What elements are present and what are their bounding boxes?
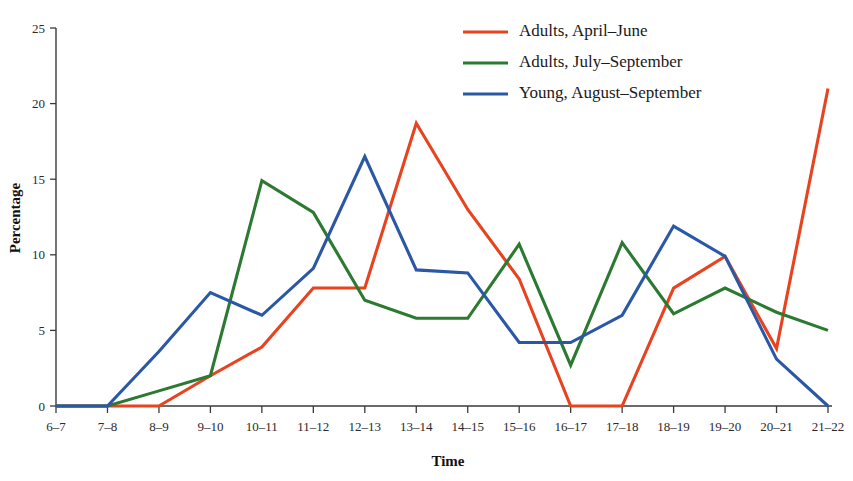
series-lines <box>56 88 828 406</box>
chart-canvas: 0510152025 6–77–88–99–1010–1111–1212–131… <box>0 0 853 481</box>
series-line-2 <box>56 157 828 406</box>
line-chart: 0510152025 6–77–88–99–1010–1111–1212–131… <box>0 0 853 481</box>
legend-label-1: Adults, July–September <box>519 52 683 71</box>
y-axis-title: Percentage <box>7 182 23 253</box>
x-axis-tick-label: 11–12 <box>297 419 329 434</box>
y-axis-tick-label: 0 <box>39 399 46 414</box>
chart-legend: Adults, April–JuneAdults, July–September… <box>463 21 702 102</box>
x-axis-tick-label: 16–17 <box>554 419 587 434</box>
legend-label-2: Young, August–September <box>519 83 702 102</box>
x-axis-tick-label: 7–8 <box>98 419 118 434</box>
x-axis-tick-label: 10–11 <box>246 419 278 434</box>
y-axis-tick-label: 25 <box>32 21 45 36</box>
x-axis-tick-label: 17–18 <box>606 419 639 434</box>
y-axis-tick-label: 10 <box>32 247 45 262</box>
x-axis-tick-label: 9–10 <box>197 419 223 434</box>
x-axis-tick-label: 18–19 <box>657 419 690 434</box>
x-axis-tick-label: 8–9 <box>149 419 169 434</box>
x-axis-tick-label: 19–20 <box>709 419 742 434</box>
x-axis-tick-label: 20–21 <box>760 419 793 434</box>
x-axis-title: Time <box>431 453 464 469</box>
y-axis-tick-label: 5 <box>39 323 46 338</box>
x-axis-tick-label: 15–16 <box>503 419 536 434</box>
x-axis-tick-label: 14–15 <box>451 419 484 434</box>
legend-label-0: Adults, April–June <box>519 21 647 40</box>
y-axis-tick-label: 20 <box>32 96 45 111</box>
x-axis: 6–77–88–99–1010–1111–1212–1313–1414–1515… <box>46 406 844 434</box>
x-axis-tick-label: 6–7 <box>46 419 66 434</box>
x-axis-tick-label: 12–13 <box>349 419 382 434</box>
y-axis-tick-label: 15 <box>32 172 45 187</box>
series-line-1 <box>56 181 828 406</box>
y-axis: 0510152025 <box>32 21 56 414</box>
x-axis-tick-label: 21–22 <box>812 419 845 434</box>
x-axis-tick-label: 13–14 <box>400 419 433 434</box>
